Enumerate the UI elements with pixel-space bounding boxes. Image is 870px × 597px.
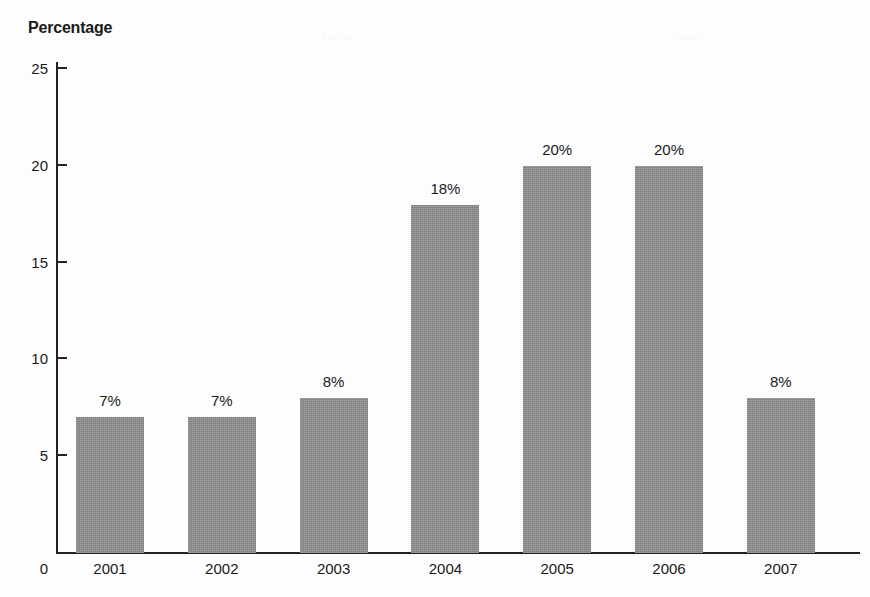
bar bbox=[635, 166, 703, 553]
scan-bleed-artifact-left: ...... bbox=[322, 26, 353, 43]
page-title: Percentage bbox=[28, 19, 112, 37]
bar bbox=[747, 398, 815, 553]
y-axis-label: 15 bbox=[14, 253, 48, 270]
bar-value-label: 18% bbox=[411, 180, 479, 197]
x-axis-label: 2005 bbox=[523, 560, 591, 577]
y-axis-label: 10 bbox=[14, 350, 48, 367]
bar-value-label: 8% bbox=[747, 373, 815, 390]
x-axis-label: 2006 bbox=[635, 560, 703, 577]
bar-value-label: 20% bbox=[523, 141, 591, 158]
y-axis-label: 5 bbox=[14, 447, 48, 464]
bar bbox=[300, 398, 368, 553]
bar-value-label: 20% bbox=[635, 141, 703, 158]
bar bbox=[523, 166, 591, 553]
x-axis-label: 2002 bbox=[188, 560, 256, 577]
x-axis-label: 2007 bbox=[747, 560, 815, 577]
x-axis-label: 2003 bbox=[300, 560, 368, 577]
bar bbox=[76, 417, 144, 553]
scan-bleed-artifact-right: ..... bbox=[676, 26, 702, 43]
bar-value-label: 7% bbox=[76, 392, 144, 409]
plot-area: 7%7%8%18%20%20%8% bbox=[56, 62, 860, 553]
bar bbox=[188, 417, 256, 553]
bar-value-label: 7% bbox=[188, 392, 256, 409]
bar-chart: ...... ..... Percentage 510152025 0 7%7%… bbox=[0, 0, 870, 597]
bar-value-label: 8% bbox=[300, 373, 368, 390]
y-axis-label: 25 bbox=[14, 60, 48, 77]
x-axis-label: 2001 bbox=[76, 560, 144, 577]
x-axis-label: 2004 bbox=[411, 560, 479, 577]
bar bbox=[411, 205, 479, 553]
y-axis-label-zero: 0 bbox=[14, 560, 48, 577]
y-axis-label: 20 bbox=[14, 156, 48, 173]
